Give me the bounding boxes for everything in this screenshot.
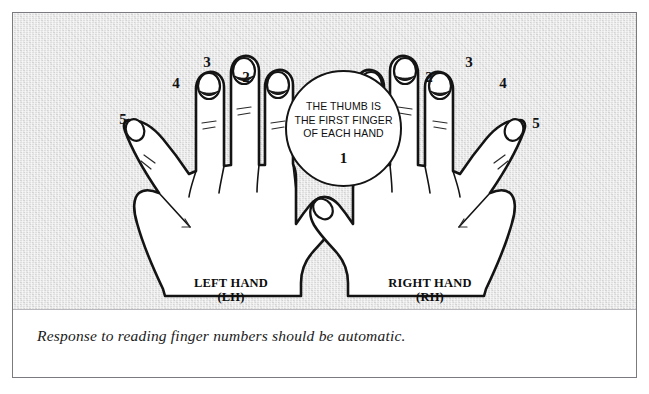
thumb-callout-circle: THE THUMB IS THE FIRST FINGER OF EACH HA…	[285, 70, 402, 187]
footnote-text: Response to reading finger numbers shoul…	[37, 327, 406, 345]
finger-number-left-3: 3	[198, 55, 216, 70]
thumb-callout-text: THE THUMB IS THE FIRST FINGER OF EACH HA…	[294, 100, 392, 141]
finger-number-left-4: 4	[167, 76, 185, 91]
finger-number-right-5: 5	[527, 116, 545, 131]
finger-number-thumb: 1	[340, 150, 348, 167]
right-hand-caption-name: RIGHT HAND	[388, 276, 471, 290]
left-hand-caption-abbr: (LH)	[156, 290, 306, 304]
figure-frame: .hand-fill { fill:#ffffff; stroke:#14141…	[12, 12, 637, 378]
finger-number-right-4: 4	[494, 76, 512, 91]
finger-number-right-3: 3	[460, 55, 478, 70]
illustration-panel: .hand-fill { fill:#ffffff; stroke:#14141…	[13, 13, 636, 309]
finger-number-left-5: 5	[114, 112, 132, 127]
left-hand-caption-name: LEFT HAND	[194, 276, 268, 290]
finger-number-right-2: 2	[420, 70, 438, 85]
left-hand-caption: LEFT HAND (LH)	[156, 276, 306, 304]
finger-number-left-2: 2	[237, 70, 255, 85]
figure-root: .hand-fill { fill:#ffffff; stroke:#14141…	[0, 0, 649, 394]
caption-strip: Response to reading finger numbers shoul…	[13, 309, 636, 377]
right-hand-caption-abbr: (RH)	[355, 290, 505, 304]
right-hand-caption: RIGHT HAND (RH)	[355, 276, 505, 304]
